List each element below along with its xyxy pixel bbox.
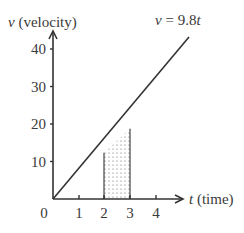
y-tick-label: 20 xyxy=(31,116,46,132)
y-tick-label: 10 xyxy=(31,154,46,170)
velocity-time-chart: 10 20 30 40 0 1 2 3 4 v (velocity) t (ti… xyxy=(0,0,244,233)
x-tick-label: 4 xyxy=(152,205,160,221)
x-axis-label-text: (time) xyxy=(193,191,233,208)
x-tick-label: 3 xyxy=(126,205,134,221)
x-tick-label: 0 xyxy=(40,205,48,221)
x-tick-label: 1 xyxy=(75,205,83,221)
equation-label: v = 9.8t xyxy=(155,12,201,28)
equation-mid: = 9.8 xyxy=(162,12,197,28)
y-axis-label: v (velocity) xyxy=(8,14,77,31)
y-axis-label-text: (velocity) xyxy=(15,14,77,31)
y-tick-label: 40 xyxy=(31,41,46,57)
y-tick-label: 30 xyxy=(31,79,46,95)
shaded-area xyxy=(104,129,130,199)
equation-var: t xyxy=(196,12,201,28)
x-tick-label: 2 xyxy=(100,205,108,221)
x-axis-label: t (time) xyxy=(189,191,234,208)
